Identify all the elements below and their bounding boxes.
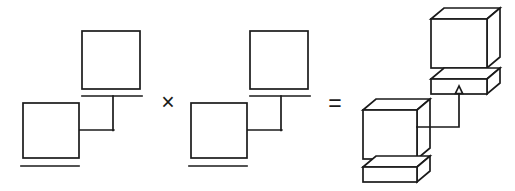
operand-right-upper-square	[250, 31, 308, 89]
result-upper-cube-right-face	[487, 8, 500, 68]
operand-left-upper-square	[82, 31, 140, 89]
result-upper-cube-front-face	[431, 19, 487, 68]
operand-left-lower-square	[23, 103, 79, 158]
result-lower-slab-front-face	[363, 167, 417, 182]
operand-right-group	[189, 31, 310, 166]
operand-left-group	[21, 31, 142, 166]
result-lower-cube-right-face	[417, 99, 430, 159]
result-upper-cube	[431, 8, 500, 68]
tensor-product-diagram	[0, 0, 515, 191]
equals-sign-icon: =	[322, 92, 348, 115]
result-group	[363, 8, 500, 182]
result-lower-cube	[363, 99, 430, 159]
figure-root: × =	[0, 0, 515, 191]
result-lower-cube-front-face	[363, 110, 417, 159]
result-lower-slab	[363, 156, 430, 182]
multiplication-sign-icon: ×	[155, 91, 181, 114]
operand-right-lower-square	[191, 103, 247, 158]
result-upper-slab	[431, 68, 500, 94]
